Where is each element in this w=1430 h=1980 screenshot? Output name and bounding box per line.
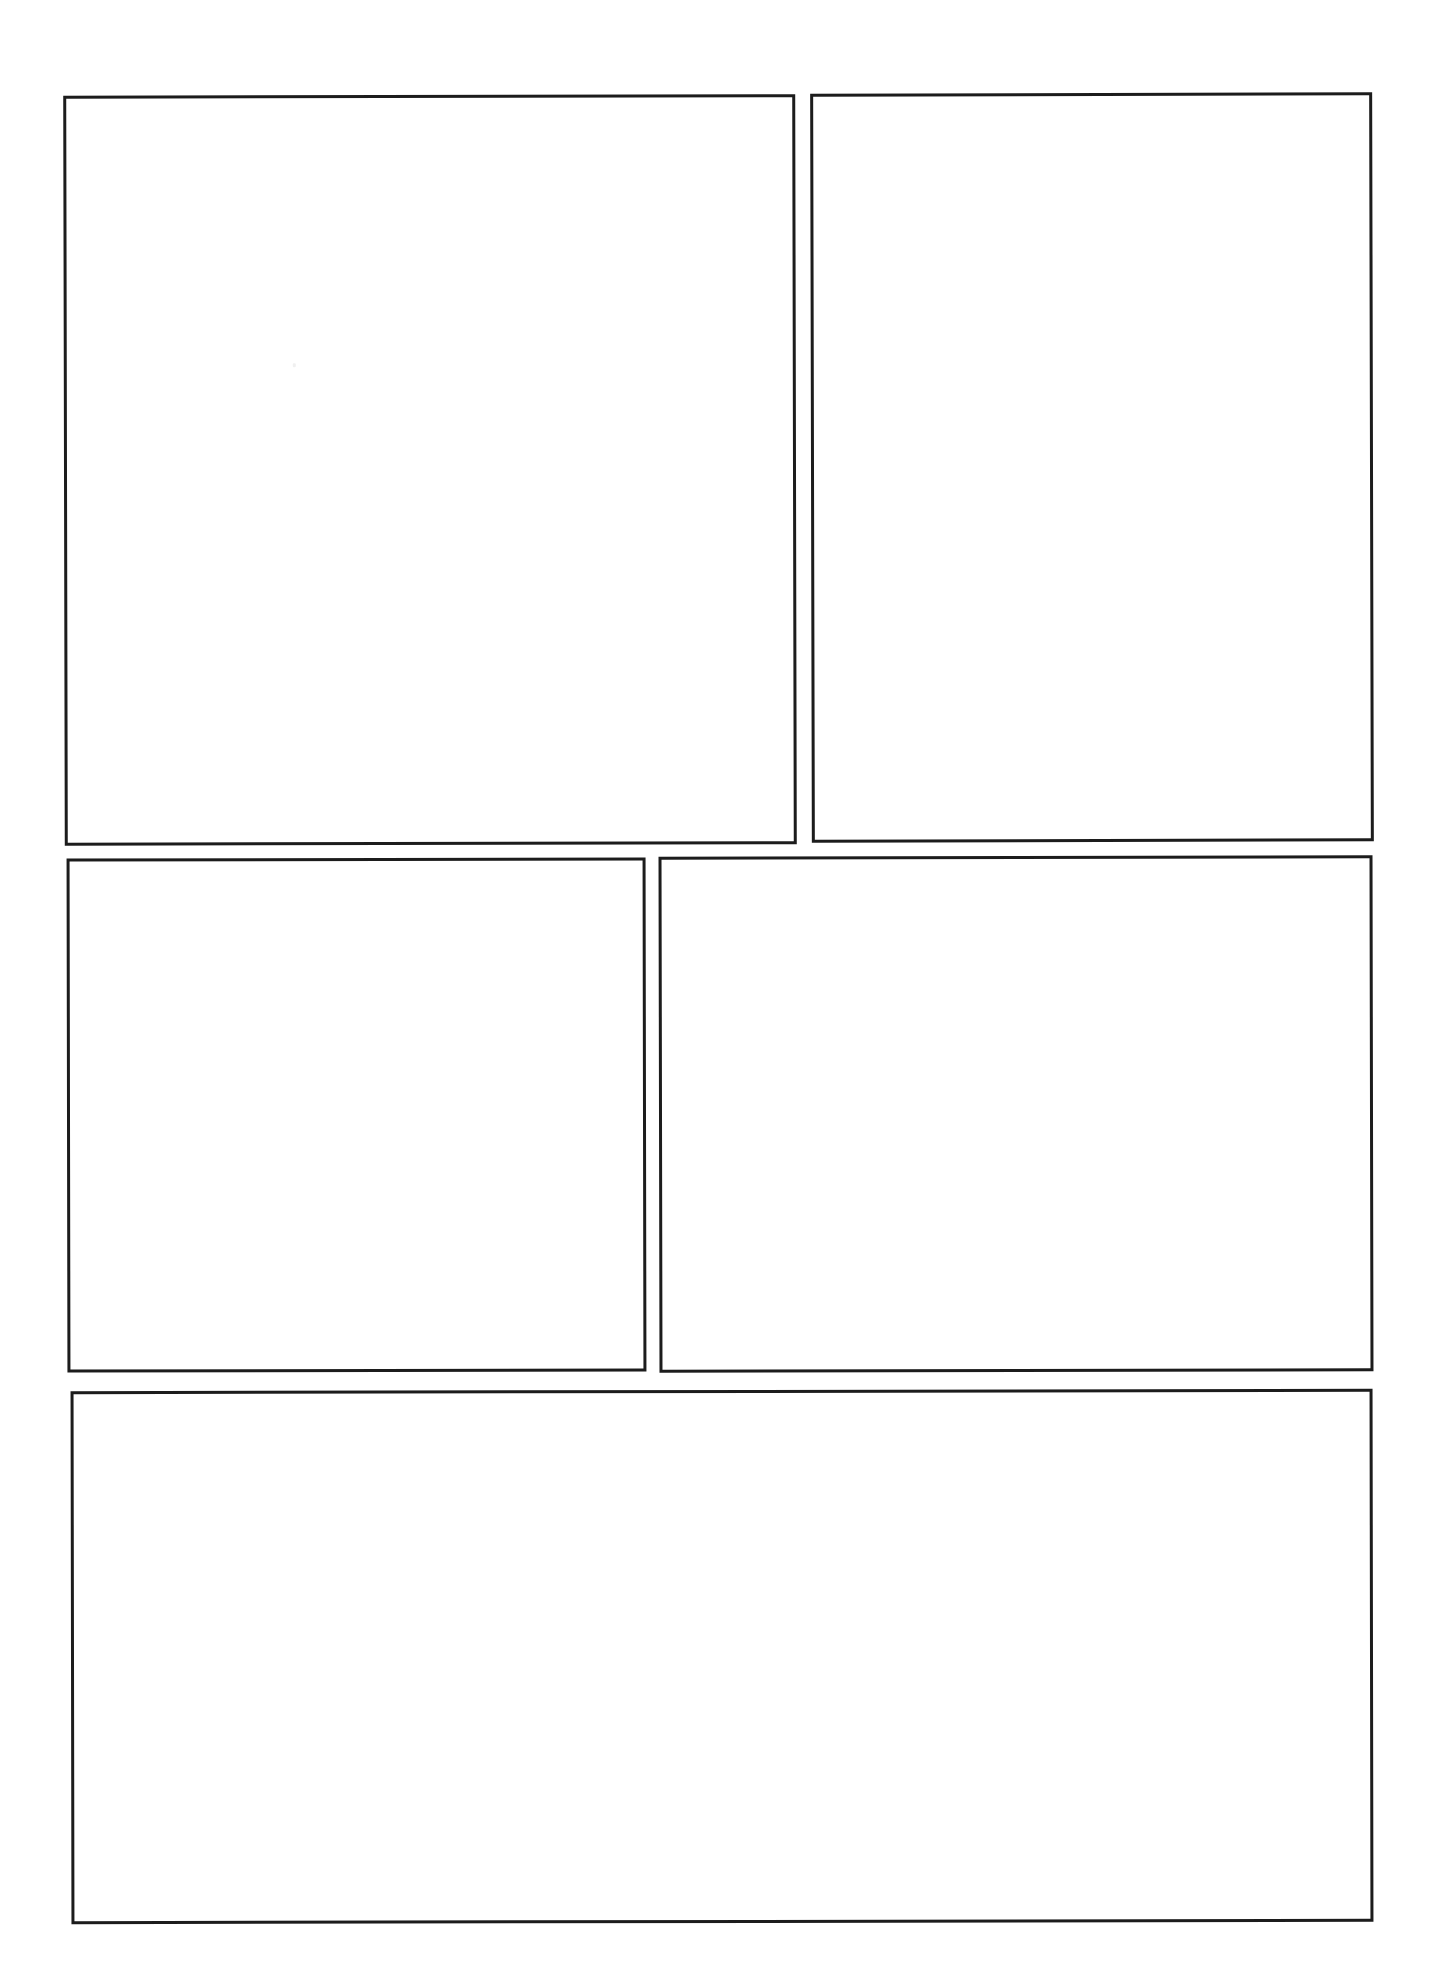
comic-panel-1-content (66, 97, 794, 843)
comic-panel-3[interactable] (67, 857, 647, 1372)
comic-page: Blank Comic Page Template (0, 0, 1430, 1980)
comic-panel-5-content (74, 1392, 1371, 1921)
comic-panel-5[interactable] (71, 1389, 1374, 1924)
scan-speck (293, 363, 296, 367)
page-title: Blank Comic Page Template (0, 0, 1, 1)
comic-panel-2[interactable] (810, 92, 1374, 842)
comic-panel-2-content (813, 95, 1371, 839)
comic-panel-3-content (70, 861, 644, 1370)
comic-panel-4[interactable] (659, 855, 1374, 1372)
comic-panel-4-content (662, 858, 1371, 1369)
comic-panel-1[interactable] (63, 94, 797, 846)
